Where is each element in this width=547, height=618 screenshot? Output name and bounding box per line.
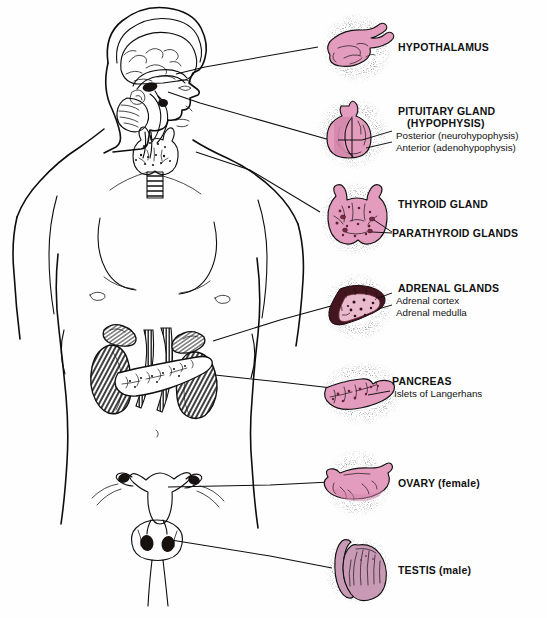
label-pituitary-gland: PITUITARY GLAND xyxy=(398,105,496,117)
label-ovary: OVARY (female) xyxy=(398,477,480,489)
label-adrenal-cortex: Adrenal cortex xyxy=(396,295,459,306)
label-adrenal-medulla: Adrenal medulla xyxy=(396,307,467,318)
label-thyroid-gland: THYROID GLAND xyxy=(398,198,488,210)
label-pancreas: PANCREAS xyxy=(392,375,452,387)
label-posterior-neurohypophysis: Posterior (neurohypophysis) xyxy=(396,130,519,141)
label-hypophysis: (HYPOPHYSIS) xyxy=(407,117,485,129)
label-islets-of-langerhans: Islets of Langerhans xyxy=(394,388,482,399)
label-adrenal-glands: ADRENAL GLANDS xyxy=(398,282,499,294)
label-testis: TESTIS (male) xyxy=(398,564,471,576)
endocrine-system-diagram: HYPOTHALAMUS PITUITARY GLA xyxy=(0,0,547,618)
label-parathyroid-glands: PARATHYROID GLANDS xyxy=(392,227,518,239)
label-anterior-adenohypophysis: Anterior (adenohypophysis) xyxy=(396,142,516,153)
pituitary-marker-icon xyxy=(158,99,168,107)
label-hypothalamus: HYPOTHALAMUS xyxy=(398,41,489,53)
